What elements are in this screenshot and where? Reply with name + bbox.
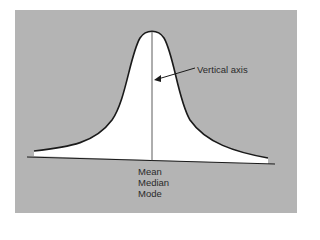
- vertical-axis-label: Vertical axis: [197, 64, 248, 75]
- mean-label: Mean: [138, 166, 169, 177]
- median-label: Median: [138, 177, 169, 188]
- mode-label: Mode: [138, 188, 169, 199]
- bell-curve-fill: [34, 31, 268, 164]
- central-tendency-labels: Mean Median Mode: [138, 166, 169, 199]
